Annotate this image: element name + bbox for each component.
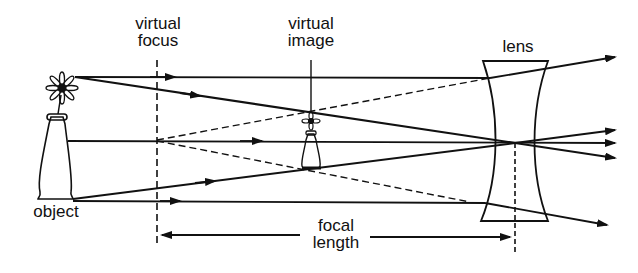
ray-through-center — [75, 77, 515, 143]
focal-length-label-line1: focal — [300, 217, 372, 234]
virtual-image-vase — [302, 134, 320, 168]
virtual-focus-label: virtual focus — [125, 15, 191, 49]
ray-extension-dashed-bottom — [157, 141, 470, 202]
focal-length-label: focal length — [300, 217, 372, 251]
focal-length-label-line2: length — [300, 234, 372, 251]
ray-parallel-bottom — [73, 201, 485, 203]
virtual-image-label: virtual image — [278, 15, 344, 49]
virtual-image-label-line2: image — [278, 32, 344, 49]
object-flower-icon — [46, 72, 78, 104]
ray-parallel-top — [75, 77, 490, 78]
virtual-focus-label-line1: virtual — [125, 15, 191, 32]
virtual-image-label-line1: virtual — [278, 15, 344, 32]
virtual-focus-label-line2: focus — [125, 32, 191, 49]
concave-lens — [481, 61, 548, 221]
ray-toward-lens-center — [73, 143, 515, 199]
object-label: object — [24, 203, 88, 220]
object-vase — [38, 117, 73, 199]
virtual-image-flower-icon — [302, 112, 320, 130]
lens-label: lens — [494, 38, 542, 55]
